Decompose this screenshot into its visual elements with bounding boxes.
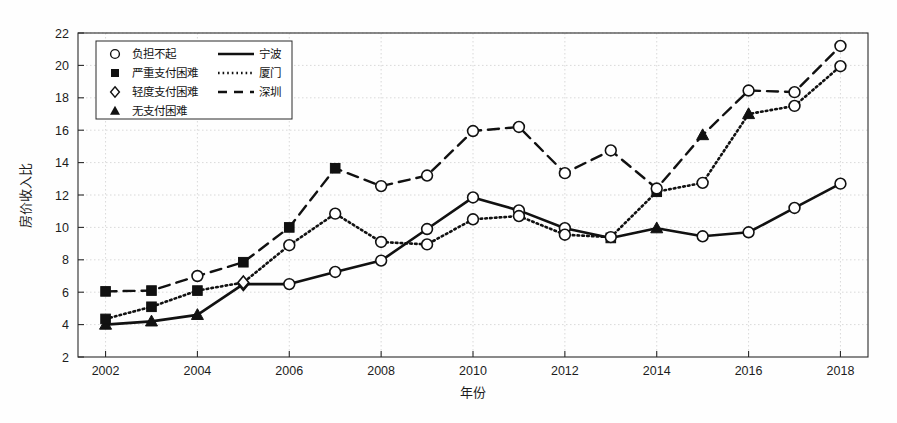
data-point-厦门-2007 — [330, 208, 341, 219]
x-tick-label: 2014 — [643, 364, 671, 378]
x-tick-label: 2004 — [184, 364, 212, 378]
data-point-厦门-2015 — [697, 177, 708, 188]
data-point-宁波-2015 — [697, 231, 708, 242]
data-point-深圳-2016 — [743, 85, 754, 96]
marker-circle-icon — [422, 224, 433, 235]
y-tick-label: 6 — [62, 286, 69, 300]
legend-label-无支付困难: 无支付困难 — [132, 105, 187, 117]
data-point-厦门-2012 — [559, 229, 570, 240]
marker-square-icon — [193, 286, 203, 296]
x-axis-title: 年份 — [460, 385, 486, 400]
chart-figure: 2468101214161820222002200420062008201020… — [0, 0, 897, 423]
marker-circle-icon — [789, 101, 800, 112]
marker-square-icon — [330, 163, 340, 173]
data-point-深圳-2018 — [835, 41, 846, 52]
marker-circle-icon — [651, 183, 662, 194]
x-tick-label: 2006 — [275, 364, 303, 378]
marker-circle-icon — [376, 255, 387, 266]
x-tick-label: 2018 — [827, 364, 855, 378]
legend-marker-负担不起 — [111, 50, 120, 59]
data-point-厦门-2017 — [789, 101, 800, 112]
data-point-深圳-2007 — [330, 163, 340, 173]
marker-circle-icon — [376, 237, 387, 248]
y-tick-label: 20 — [55, 59, 69, 73]
marker-circle-icon — [284, 240, 295, 251]
y-tick-label: 4 — [62, 318, 69, 332]
data-point-厦门-2006 — [284, 240, 295, 251]
y-tick-label: 18 — [55, 91, 69, 105]
data-point-深圳-2006 — [284, 223, 294, 233]
data-point-厦门-2004 — [193, 286, 203, 296]
data-point-深圳-2012 — [559, 168, 570, 179]
legend-label-深圳: 深圳 — [259, 85, 281, 98]
data-point-深圳-2014 — [651, 183, 662, 194]
legend-marker-严重支付困难 — [111, 69, 119, 77]
marker-square-icon — [284, 223, 294, 233]
marker-square-icon — [101, 314, 111, 324]
marker-circle-icon — [789, 87, 800, 98]
marker-square-icon — [101, 287, 111, 297]
y-tick-label: 8 — [62, 253, 69, 267]
data-point-厦门-2008 — [376, 237, 387, 248]
data-point-深圳-2013 — [605, 145, 616, 156]
marker-square-icon — [147, 286, 157, 296]
marker-circle-icon — [697, 177, 708, 188]
data-point-深圳-2011 — [514, 122, 525, 133]
x-tick-label: 2016 — [735, 364, 763, 378]
marker-circle-icon — [330, 267, 341, 278]
data-point-宁波-2008 — [376, 255, 387, 266]
marker-circle-icon — [468, 214, 479, 225]
y-axis-title: 房价收入比 — [18, 163, 33, 228]
legend-label-严重支付困难: 严重支付困难 — [132, 66, 198, 79]
data-point-厦门-2010 — [468, 214, 479, 225]
marker-circle-icon — [514, 211, 525, 222]
data-point-厦门-2011 — [514, 211, 525, 222]
marker-circle-icon — [835, 41, 846, 52]
marker-circle-icon — [330, 208, 341, 219]
marker-circle-icon — [697, 231, 708, 242]
data-point-宁波-2016 — [743, 227, 754, 238]
marker-circle-icon — [559, 168, 570, 179]
marker-circle-icon — [422, 170, 433, 181]
data-point-宁波-2007 — [330, 267, 341, 278]
marker-circle-icon — [835, 178, 846, 189]
legend-label-负担不起: 负担不起 — [132, 47, 177, 60]
data-point-深圳-2010 — [468, 126, 479, 137]
marker-circle-icon — [468, 192, 479, 203]
data-point-宁波-2009 — [422, 224, 433, 235]
marker-circle-icon — [111, 50, 120, 59]
y-tick-label: 12 — [55, 189, 69, 203]
chart-canvas: 2468101214161820222002200420062008201020… — [0, 0, 897, 423]
data-point-宁波-2010 — [468, 192, 479, 203]
marker-circle-icon — [743, 85, 754, 96]
data-point-厦门-2013 — [605, 232, 616, 243]
data-point-深圳-2009 — [422, 170, 433, 181]
data-point-厦门-2003 — [147, 302, 157, 312]
marker-circle-icon — [743, 227, 754, 238]
marker-circle-icon — [192, 271, 203, 282]
marker-circle-icon — [559, 229, 570, 240]
legend: 负担不起严重支付困难轻度支付困难无支付困难宁波厦门深圳 — [96, 41, 292, 119]
legend-label-宁波: 宁波 — [259, 47, 282, 60]
marker-circle-icon — [376, 181, 387, 192]
data-point-宁波-2006 — [284, 279, 295, 290]
marker-circle-icon — [605, 145, 616, 156]
data-point-深圳-2003 — [147, 286, 157, 296]
legend-label-厦门: 厦门 — [259, 66, 281, 79]
x-tick-label: 2002 — [92, 364, 120, 378]
y-tick-label: 14 — [55, 156, 69, 170]
data-point-深圳-2004 — [192, 271, 203, 282]
x-tick-label: 2008 — [367, 364, 395, 378]
marker-circle-icon — [422, 239, 433, 250]
data-point-厦门-2018 — [835, 61, 846, 72]
marker-circle-icon — [284, 279, 295, 290]
data-point-宁波-2017 — [789, 203, 800, 214]
marker-square-icon — [239, 257, 249, 267]
x-tick-label: 2012 — [551, 364, 579, 378]
y-tick-label: 16 — [55, 124, 69, 138]
marker-square-icon — [147, 302, 157, 312]
marker-circle-icon — [514, 122, 525, 133]
y-tick-label: 2 — [62, 351, 69, 365]
y-tick-label: 22 — [55, 27, 69, 41]
marker-square-icon — [111, 69, 119, 77]
